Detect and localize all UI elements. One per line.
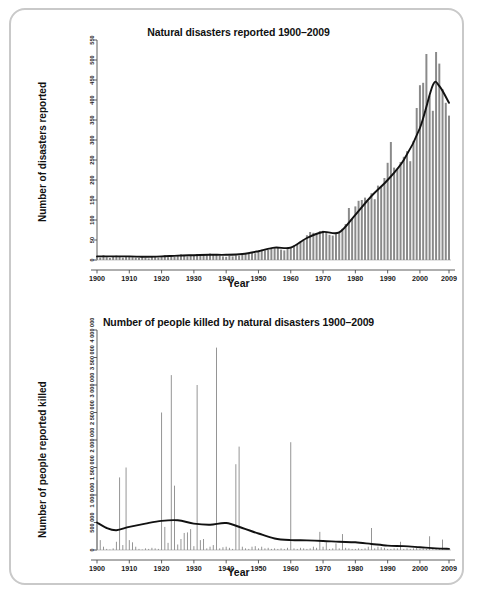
bar: [213, 545, 214, 550]
bar: [254, 253, 256, 260]
bar: [109, 258, 111, 260]
bar: [126, 468, 127, 551]
bar: [267, 250, 269, 260]
bar: [384, 548, 385, 550]
x-axis-label-bottom: Year: [11, 566, 466, 578]
bar: [132, 542, 133, 550]
bar: [438, 64, 440, 260]
bar: [129, 540, 130, 550]
bar: [206, 255, 208, 260]
bar: [381, 547, 382, 550]
bar-series: [96, 52, 450, 260]
bar: [184, 533, 185, 550]
bar: [251, 253, 253, 260]
bar: [238, 256, 240, 260]
y-tick-label: 250: [89, 155, 95, 164]
bar: [248, 254, 250, 260]
bar: [290, 442, 291, 550]
bar: [380, 187, 382, 260]
bar: [122, 545, 123, 550]
bar: [186, 256, 188, 260]
bar: [135, 258, 137, 260]
bar: [161, 413, 162, 551]
bar: [432, 111, 434, 260]
plot-area-top: 0501001502002503003504004505005501900191…: [63, 34, 455, 284]
bar: [393, 168, 395, 260]
bar: [144, 258, 146, 260]
bar: [316, 548, 317, 550]
bar: [335, 234, 337, 260]
bar: [371, 193, 373, 260]
y-tick-label: 150: [89, 195, 95, 204]
bar: [419, 85, 421, 260]
bar: [448, 116, 450, 260]
bar: [293, 246, 295, 260]
bar: [378, 547, 379, 550]
bar: [283, 250, 285, 260]
bar: [390, 142, 392, 260]
bar: [181, 539, 182, 550]
bar: [177, 545, 178, 551]
bar: [164, 527, 165, 550]
bar: [396, 169, 398, 260]
bar: [270, 249, 272, 260]
bar: [442, 89, 444, 260]
bar: [445, 103, 447, 260]
bar: [322, 231, 324, 260]
bar: [287, 548, 288, 550]
bar: [199, 256, 201, 260]
chart-panel-natural-disasters: Natural disasters reported 1900–2009 Num…: [11, 12, 466, 295]
bar: [348, 208, 350, 260]
bar: [316, 234, 318, 260]
y-tick-label: 1 500 000: [89, 455, 95, 480]
bar: [290, 247, 292, 260]
bar: [132, 257, 134, 260]
bar: [261, 547, 262, 550]
y-tick-label: 4 000 000: [89, 318, 95, 343]
bar: [257, 251, 259, 260]
bar: [313, 547, 314, 550]
y-tick-label: 2 500 000: [89, 400, 95, 425]
bar-series: [97, 348, 443, 550]
bar: [190, 529, 191, 550]
bar: [174, 257, 176, 260]
bar: [138, 258, 140, 260]
bar: [303, 239, 305, 260]
bar: [387, 163, 389, 260]
bar: [235, 255, 237, 260]
bar: [193, 546, 194, 550]
bar: [319, 231, 321, 260]
y-axis-label-top: Number of disasters reported: [37, 82, 48, 222]
bar: [239, 447, 240, 550]
bar: [203, 539, 204, 550]
bar: [119, 477, 120, 550]
bar: [299, 242, 301, 260]
y-tick-label: 550: [89, 35, 95, 44]
bar: [241, 254, 243, 260]
bar: [232, 256, 234, 260]
bar: [171, 375, 172, 550]
bar: [222, 256, 224, 260]
bar: [264, 250, 266, 260]
bar: [225, 257, 227, 260]
bar: [228, 256, 230, 260]
y-tick-label: 200: [89, 175, 95, 184]
bar: [296, 244, 298, 260]
bar: [326, 542, 327, 550]
trend-line: [97, 520, 449, 549]
bar: [99, 258, 101, 260]
bar: [100, 540, 101, 550]
bar: [210, 547, 211, 550]
bar: [403, 157, 405, 260]
bar: [422, 83, 424, 260]
bar: [174, 486, 175, 550]
bar: [377, 186, 379, 260]
y-tick-label: 3 500 000: [89, 345, 95, 370]
y-tick-label: 3 000 000: [89, 373, 95, 398]
bar: [383, 178, 385, 260]
bar: [338, 232, 340, 260]
bar: [106, 257, 108, 260]
bar: [351, 219, 353, 260]
bar: [226, 547, 227, 550]
bar: [429, 96, 431, 260]
